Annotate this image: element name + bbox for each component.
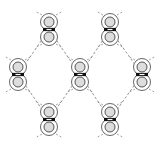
- atom-core: [44, 122, 54, 132]
- dashed-stub: [117, 11, 124, 15]
- bond-gap: [47, 29, 52, 30]
- atom-core: [137, 62, 147, 72]
- molecule: [41, 14, 58, 46]
- dashed-stub: [56, 134, 63, 138]
- atom-core: [105, 107, 115, 117]
- bond-gap: [16, 74, 21, 75]
- bond-gap: [108, 29, 113, 30]
- atom-core: [13, 77, 23, 87]
- molecule: [10, 59, 27, 91]
- atom-core: [105, 17, 115, 27]
- dashed-stub: [4, 56, 11, 60]
- molecular-lattice-diagram: [0, 0, 160, 148]
- atom-core: [75, 62, 85, 72]
- dashed-stub: [56, 11, 63, 15]
- dashed-stub: [149, 56, 156, 60]
- dashed-stub: [4, 89, 11, 93]
- dashed-stub: [96, 134, 103, 138]
- molecule: [72, 59, 89, 91]
- molecule: [41, 104, 58, 136]
- atom-core: [137, 77, 147, 87]
- dashed-stub: [96, 11, 103, 15]
- atom-core: [44, 17, 54, 27]
- dashed-stub: [117, 134, 124, 138]
- atom-core: [44, 107, 54, 117]
- atom-core: [105, 122, 115, 132]
- dashed-stub: [35, 11, 42, 15]
- dashed-stub: [96, 101, 103, 105]
- bond-gap: [140, 74, 145, 75]
- atom-core: [105, 32, 115, 42]
- dashed-stub: [35, 134, 42, 138]
- atom-core: [13, 62, 23, 72]
- molecule: [102, 14, 119, 46]
- dashed-stub: [149, 89, 156, 93]
- molecule: [134, 59, 151, 91]
- dashed-stub: [87, 56, 94, 60]
- bond-gap: [47, 119, 52, 120]
- atom-core: [44, 32, 54, 42]
- molecules: [10, 14, 151, 136]
- bond-gap: [78, 74, 83, 75]
- atom-core: [75, 77, 85, 87]
- bond-gap: [108, 119, 113, 120]
- molecule: [102, 104, 119, 136]
